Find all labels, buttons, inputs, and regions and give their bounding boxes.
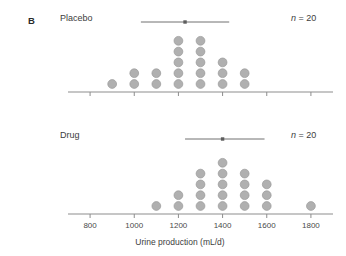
data-dot <box>174 36 183 45</box>
data-dot <box>152 80 161 89</box>
data-dot <box>196 80 205 89</box>
data-dot <box>262 180 271 189</box>
data-dot <box>196 191 205 200</box>
data-dot <box>196 58 205 67</box>
data-dot <box>196 180 205 189</box>
data-dot <box>262 202 271 211</box>
data-dot <box>196 47 205 56</box>
group-label-placebo: Placebo <box>60 13 93 23</box>
data-dot <box>240 69 249 78</box>
data-dot <box>240 80 249 89</box>
x-tick-label-1200: 1200 <box>170 221 188 230</box>
data-dot <box>174 47 183 56</box>
data-dot <box>218 169 227 178</box>
x-tick-label-1400: 1400 <box>214 221 232 230</box>
data-dot <box>174 58 183 67</box>
data-dot <box>152 202 161 211</box>
data-dot <box>307 202 316 211</box>
data-dot <box>174 191 183 200</box>
data-dot <box>130 69 139 78</box>
mean-marker-placebo <box>183 20 186 23</box>
data-dot <box>174 202 183 211</box>
data-dot <box>174 69 183 78</box>
panel-drug: Drugn = 2080010001200140016001800 <box>60 130 333 230</box>
data-dot <box>218 202 227 211</box>
x-tick-label-1000: 1000 <box>125 221 143 230</box>
data-dot <box>196 202 205 211</box>
sample-size-label-drug: n = 20 <box>291 130 316 140</box>
panel-placebo: Placebon = 20 <box>60 13 333 96</box>
group-label-drug: Drug <box>60 130 80 140</box>
data-dot <box>218 80 227 89</box>
data-dot <box>218 180 227 189</box>
mean-marker-drug <box>221 137 224 140</box>
data-dot <box>240 191 249 200</box>
x-tick-label-1800: 1800 <box>302 221 320 230</box>
data-dot <box>218 158 227 167</box>
data-dot <box>218 58 227 67</box>
sample-size-label-placebo: n = 20 <box>291 13 316 23</box>
data-dot <box>262 191 271 200</box>
data-dot <box>196 169 205 178</box>
panel-letter: B <box>28 15 35 26</box>
data-dot <box>240 180 249 189</box>
data-dot <box>240 202 249 211</box>
data-dot <box>240 169 249 178</box>
data-dot <box>218 191 227 200</box>
data-dot <box>174 80 183 89</box>
data-dot <box>196 36 205 45</box>
data-dot <box>218 69 227 78</box>
figure-panel-b: BPlacebon = 20Drugn = 208001000120014001… <box>0 0 346 256</box>
x-tick-label-800: 800 <box>83 221 97 230</box>
x-axis-title: Urine production (mL/d) <box>135 237 224 247</box>
data-dot <box>108 80 117 89</box>
data-dot <box>196 69 205 78</box>
dot-plot-svg: BPlacebon = 20Drugn = 208001000120014001… <box>0 0 346 256</box>
data-dot <box>152 69 161 78</box>
data-dot <box>130 80 139 89</box>
x-tick-label-1600: 1600 <box>258 221 276 230</box>
